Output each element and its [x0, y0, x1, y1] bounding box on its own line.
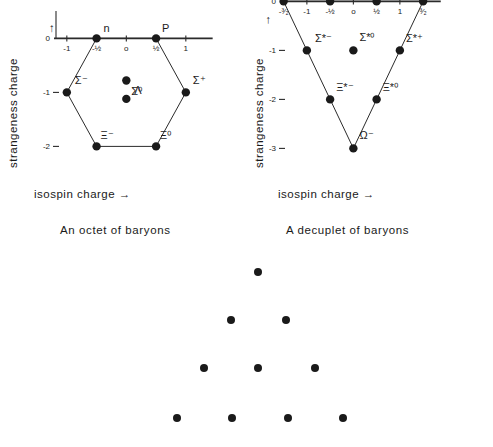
dot-pattern-svg: [0, 248, 493, 447]
pattern-dot: [254, 364, 262, 372]
particle-dot: [92, 34, 100, 42]
multiplet-outline: [284, 1, 424, 148]
particle-dot: [326, 0, 334, 6]
particle-dot: [122, 76, 130, 84]
particle-dot: [63, 88, 71, 96]
x-tick-label: -1: [63, 44, 71, 53]
particle-label-sigma-star-minus: Σ*⁻: [315, 32, 332, 44]
y-tick-label: 0: [272, 0, 277, 6]
particle-label-proton: P: [162, 22, 169, 34]
decuplet-plot: -3-2-10-³⁄₂-1-½o½1³⁄₂Ω⁻Ξ*⁻Ξ*⁰Σ*⁻Σ*⁰Σ*⁺N*…: [246, 0, 493, 215]
particle-dot: [152, 34, 160, 42]
particle-label-sigma-star-zero: Σ*⁰: [359, 31, 375, 43]
particle-dot: [326, 95, 334, 103]
particle-label-xi-minus: Ξ⁻: [101, 129, 114, 141]
particle-sigma-star-minus: Σ*⁻: [303, 32, 332, 54]
x-tick-label: o: [124, 44, 129, 53]
decuplet-diagram: -3-2-10-³⁄₂-1-½o½1³⁄₂Ω⁻Ξ*⁻Ξ*⁰Σ*⁻Σ*⁰Σ*⁺N*…: [246, 0, 493, 215]
dot-pattern: [0, 248, 493, 447]
pattern-dot: [173, 414, 181, 422]
x-axis-title: isospin charge →: [34, 188, 131, 200]
dot-row-2: [200, 364, 319, 372]
particle-sigma-minus: Σ⁻: [63, 74, 88, 96]
particle-label-xi-star-zero: Ξ*⁰: [383, 81, 399, 93]
particle-dot: [396, 46, 404, 54]
pattern-dot: [227, 316, 235, 324]
particle-label-xi-zero: Ξ⁰: [160, 129, 172, 141]
particle-dot: [122, 95, 130, 103]
y-tick-label: 0: [46, 34, 51, 43]
particle-dot: [419, 0, 427, 6]
particle-xi-star-zero: Ξ*⁰: [372, 81, 399, 103]
x-tick-label: ½: [373, 7, 380, 16]
particle-dot: [372, 95, 380, 103]
x-tick-label: 1: [398, 7, 403, 16]
pattern-dot: [339, 414, 347, 422]
particle-dot: [349, 144, 357, 152]
particle-sigma-plus: Σ⁺: [182, 74, 206, 96]
particle-dot: [92, 142, 100, 150]
pattern-dot: [228, 414, 236, 422]
octet-caption: An octet of baryons: [60, 224, 171, 236]
pattern-dot: [311, 364, 319, 372]
x-tick-label: 1: [184, 44, 189, 53]
octet-diagram: -2-10-1-½o½1Ξ⁻Ξ⁰Σ⁻Σ⁺ΛΣ⁰nPisospin charge …: [0, 0, 246, 215]
y-tick-label: -2: [269, 95, 277, 104]
particle-xi-minus: Ξ⁻: [92, 129, 113, 150]
particle-label-sigma-zero: Σ⁰: [131, 85, 143, 97]
decuplet-caption: A decuplet of baryons: [286, 224, 409, 236]
x-tick-label: -½: [92, 44, 102, 53]
x-tick-label: -1: [303, 7, 311, 16]
particle-label-omega-minus: Ω⁻: [359, 129, 373, 141]
y-tick-label: -2: [43, 142, 51, 151]
dot-row-1: [227, 316, 290, 324]
particle-dot: [182, 88, 190, 96]
pattern-dot: [284, 414, 292, 422]
baryon-multiplets-figure: -2-10-1-½o½1Ξ⁻Ξ⁰Σ⁻Σ⁺ΛΣ⁰nPisospin charge …: [0, 0, 493, 447]
pattern-dot: [282, 316, 290, 324]
y-axis-arrow: ↑: [49, 22, 55, 34]
particle-sigma-zero: Σ⁰: [122, 76, 143, 96]
particle-sigma-star-zero: Σ*⁰: [349, 31, 375, 54]
dot-row-3: [173, 414, 347, 422]
dot-row-0: [254, 268, 262, 276]
y-tick-label: -3: [269, 144, 277, 153]
particle-sigma-star-plus: Σ*⁺: [396, 32, 423, 54]
particle-dot: [349, 46, 357, 54]
particle-label-sigma-star-plus: Σ*⁺: [406, 32, 423, 44]
particle-omega-minus: Ω⁻: [349, 129, 373, 152]
particle-dot: [152, 142, 160, 150]
y-tick-label: -1: [269, 46, 277, 55]
y-axis-title: strangeness charge: [7, 58, 19, 168]
particle-dot: [372, 0, 380, 6]
x-tick-label: ½: [153, 44, 160, 53]
pattern-dot: [254, 268, 262, 276]
octet-plot: -2-10-1-½o½1Ξ⁻Ξ⁰Σ⁻Σ⁺ΛΣ⁰nPisospin charge …: [0, 0, 246, 215]
particle-label-sigma-minus: Σ⁻: [75, 74, 88, 86]
particle-xi-star-minus: Ξ*⁻: [326, 81, 354, 103]
particle-label-xi-star-minus: Ξ*⁻: [336, 81, 353, 93]
particle-proton: P: [152, 22, 170, 42]
x-tick-label: ³⁄₂: [420, 7, 427, 16]
particle-label-sigma-plus: Σ⁺: [193, 74, 206, 86]
particle-dot: [303, 46, 311, 54]
particle-label-neutron: n: [104, 22, 110, 34]
pattern-dot: [200, 364, 208, 372]
particle-xi-zero: Ξ⁰: [152, 129, 172, 150]
x-tick-label: -½: [325, 7, 335, 16]
x-tick-label: o: [351, 7, 356, 16]
y-tick-label: -1: [43, 88, 51, 97]
particle-neutron: n: [92, 22, 109, 42]
y-axis-title: strangeness charge: [253, 58, 265, 168]
x-axis-title: isospin charge →: [278, 188, 375, 200]
particle-dot: [279, 0, 287, 6]
y-axis-arrow: →: [260, 14, 272, 26]
